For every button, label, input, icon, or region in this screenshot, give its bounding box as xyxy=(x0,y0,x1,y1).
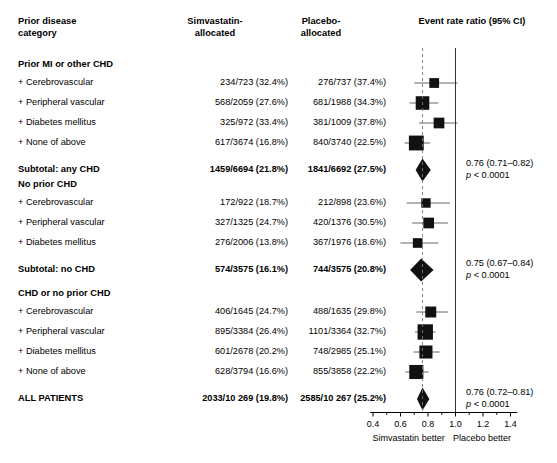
summary-ci-annotation: 0.75 (0.67–0.84)p < 0.0001 xyxy=(466,257,533,281)
summary-ci-value: 0.75 (0.67–0.84) xyxy=(466,257,533,269)
summary-p-value: p < 0.0001 xyxy=(466,169,533,181)
axis-tick-label: 1.4 xyxy=(491,419,531,429)
summary-ci-annotation: 0.76 (0.71–0.82)p < 0.0001 xyxy=(466,157,533,181)
axis-right-better-label: Placebo better xyxy=(427,433,537,443)
summary-ci-annotation: 0.76 (0.72–0.81)p < 0.0001 xyxy=(466,386,533,410)
summary-ci-value: 0.76 (0.72–0.81) xyxy=(466,386,533,398)
summary-p-value: p < 0.0001 xyxy=(466,398,533,410)
summary-ci-value: 0.76 (0.71–0.82) xyxy=(466,157,533,169)
summary-p-value: p < 0.0001 xyxy=(466,269,533,281)
